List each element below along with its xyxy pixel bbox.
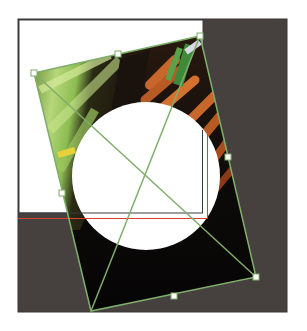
layout-canvas: [0, 0, 307, 331]
handle-bottom-mid[interactable]: [171, 293, 177, 299]
handle-left-mid[interactable]: [59, 190, 65, 196]
handle-top-left[interactable]: [31, 70, 37, 76]
handle-top-mid[interactable]: [115, 51, 121, 57]
handle-bottom-right[interactable]: [253, 274, 259, 280]
handle-top-right[interactable]: [197, 33, 203, 39]
handle-right-mid[interactable]: [225, 154, 231, 160]
